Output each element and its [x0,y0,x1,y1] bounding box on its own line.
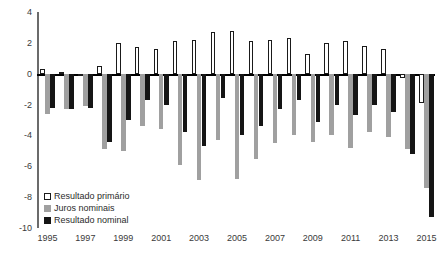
bar-nominal-2005 [240,74,245,136]
bar-nominal-2001 [164,74,169,105]
bar-primario-1998 [97,66,102,74]
bar-primario-2000 [135,47,140,73]
y-tick-label: -2 [24,100,32,109]
x-tick-label: 2001 [151,234,171,243]
bar-juros-2009 [311,74,316,142]
legend-item-nominal: Resultado nominal [44,214,130,226]
bar-juros-2005 [235,74,240,179]
bar-primario-2003 [192,40,197,74]
bar-primario-1997 [78,74,83,76]
bar-juros-1998 [102,74,107,150]
bar-nominal-1995 [50,74,55,108]
y-axis [37,12,39,228]
legend-swatch-primario-icon [44,193,51,200]
bar-nominal-2011 [353,74,358,116]
bar-nominal-2002 [183,74,188,133]
bar-chart: 420-2-4-6-8-10 1995199719992001200320052… [0,0,438,262]
y-tick-label: 4 [27,8,32,17]
bar-juros-1999 [121,74,126,151]
bar-juros-2007 [273,74,278,143]
bar-group-2015 [419,12,434,228]
bar-group-2009 [305,12,320,228]
x-tick-label: 2015 [417,234,437,243]
bar-nominal-2014 [410,74,415,154]
bar-primario-2008 [287,38,292,73]
bar-primario-2004 [211,32,216,74]
bar-group-2005 [230,12,245,228]
x-tick-label: 2005 [227,234,247,243]
bar-nominal-1997 [88,74,93,108]
bar-group-2011 [343,12,358,228]
x-tick-label: 2009 [303,234,323,243]
x-tick-label: 2007 [265,234,285,243]
bar-group-2001 [154,12,169,228]
x-tick-label: 2003 [189,234,209,243]
bar-juros-2008 [292,74,297,136]
bar-juros-2001 [159,74,164,130]
bar-juros-2012 [367,74,372,133]
bar-nominal-2000 [145,74,150,100]
bar-nominal-2006 [259,74,264,126]
bar-primario-1996 [59,72,64,74]
bar-primario-2015 [419,74,424,103]
bar-primario-2011 [343,41,348,73]
legend-swatch-juros-icon [44,205,51,212]
x-tick-label: 2011 [341,234,360,243]
y-tick-label: -4 [24,131,32,140]
legend-label: Juros nominais [54,202,115,214]
bar-group-2004 [211,12,226,228]
bar-juros-2013 [386,74,391,137]
bar-nominal-2015 [429,74,434,217]
bar-juros-1996 [64,74,69,109]
bar-primario-2007 [268,40,273,74]
bar-nominal-2013 [391,74,396,113]
x-tick-label: 1999 [113,234,133,243]
bar-primario-2013 [381,49,386,74]
bar-nominal-2003 [202,74,207,147]
bar-juros-2000 [140,74,145,126]
bar-group-2000 [135,12,150,228]
bar-nominal-1998 [107,74,112,142]
bar-nominal-2012 [372,74,377,105]
y-tick-label: -8 [24,193,32,202]
bar-juros-2006 [254,74,259,159]
bar-primario-2012 [362,46,367,74]
bar-juros-2010 [329,74,334,136]
bar-juros-2011 [348,74,353,148]
legend-item-primario: Resultado primário [44,190,130,202]
legend-swatch-nominal-icon [44,217,51,224]
bar-group-2014 [400,12,415,228]
bar-group-2013 [381,12,396,228]
bar-juros-2015 [424,74,429,188]
legend-label: Resultado primário [54,190,130,202]
bar-juros-2004 [216,74,221,140]
bar-primario-2001 [154,49,159,74]
y-tick-label: -6 [24,162,32,171]
bar-primario-2005 [230,31,235,74]
bar-nominal-1999 [126,74,131,120]
bar-group-2002 [173,12,188,228]
bar-nominal-2007 [278,74,283,109]
bar-nominal-2009 [316,74,321,122]
x-tick-label: 1995 [37,234,57,243]
bar-group-2007 [268,12,283,228]
bar-primario-2002 [173,41,178,73]
y-tick-label: 2 [27,38,32,47]
bar-primario-2009 [305,54,310,74]
chart-legend: Resultado primárioJuros nominaisResultad… [44,190,130,226]
bar-primario-2014 [400,74,405,79]
legend-label: Resultado nominal [54,214,129,226]
legend-item-juros: Juros nominais [44,202,130,214]
bar-group-2006 [249,12,264,228]
bar-group-2003 [192,12,207,228]
bar-juros-1995 [45,74,50,114]
y-tick-label: 0 [27,69,32,78]
bar-nominal-1996 [69,74,74,109]
bar-group-2008 [287,12,302,228]
bar-group-2012 [362,12,377,228]
bar-nominal-2008 [297,74,302,100]
bar-nominal-2004 [221,74,226,99]
bar-nominal-2010 [335,74,340,105]
bar-juros-2003 [197,74,202,180]
bar-juros-2002 [178,74,183,165]
